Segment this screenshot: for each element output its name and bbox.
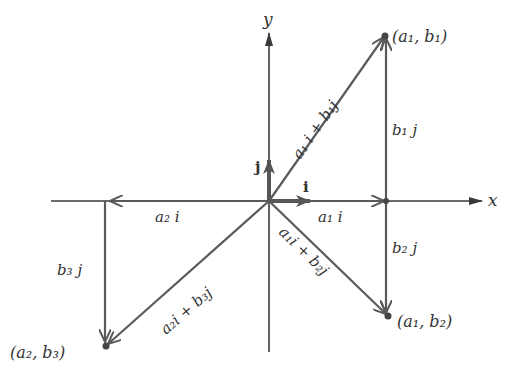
label-a2i: a₂ i (155, 208, 180, 226)
point-a1-b1 (382, 33, 389, 40)
label-a1i-plus-b2j: a₁i + b₂j (275, 223, 332, 279)
label-a1i: a₁ i (318, 208, 343, 226)
x-axis-label: x (488, 190, 498, 210)
point-label-a1-b2: (a₁, b₂) (397, 312, 452, 331)
point-a2-b3 (103, 343, 110, 350)
unit-j-label: j (253, 158, 260, 176)
point-a1-b2 (385, 313, 392, 320)
label-a1i-plus-b1j: a₁ i + b₁j (289, 97, 342, 162)
diagram-svg: x y i j (a₁, b₁) (a₁, b₂) (a₂, b₃) a₁ i … (0, 0, 517, 383)
y-axis-label: y (262, 9, 273, 29)
label-b1j: b₁ j (392, 121, 417, 139)
label-b3j: b₃ j (57, 261, 82, 279)
label-b2j: b₂ j (392, 239, 417, 257)
point-label-a1-b1: (a₁, b₁) (392, 27, 447, 46)
unit-i-label: i (303, 178, 309, 196)
vector-diagram: x y i j (a₁, b₁) (a₁, b₂) (a₂, b₃) a₁ i … (0, 0, 517, 383)
vector-a2i-plus-b3j (108, 201, 269, 344)
point-label-a2-b3: (a₂, b₃) (10, 343, 65, 362)
x-axis-projection-dot (383, 198, 389, 204)
